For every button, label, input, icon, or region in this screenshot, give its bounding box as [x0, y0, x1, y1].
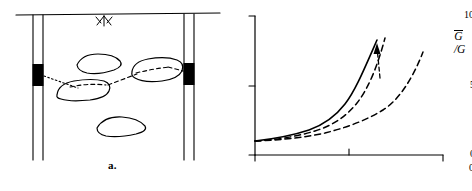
panel-a-schematic: a.: [0, 0, 236, 191]
top-boundary-line: [16, 13, 220, 15]
series-matrix-stiffness-curve: [255, 52, 423, 141]
panel-b-chart: 10 5 0 0.0 0.5 1.0 G/G λ average velocit…: [225, 0, 472, 191]
cell-shape-lower: [97, 117, 146, 137]
trend-arrow-icon: [374, 43, 381, 78]
cell-internal-dash-upper: [136, 67, 169, 73]
y-axis-label: G/G: [454, 30, 472, 55]
cell-shape-upper: [77, 54, 121, 74]
panel-a-drawing: [0, 0, 236, 191]
series-average-velocity-curve: [255, 40, 377, 141]
force-path-right-segment: [168, 67, 183, 71]
branch-mark-icon: [96, 16, 112, 26]
cell-shape-left-attached: [57, 80, 110, 101]
chart-drawing: [225, 0, 472, 191]
right-wall-adhesion-block: [184, 63, 195, 85]
figure-container: a.: [0, 0, 472, 191]
cell-shape-right-attached: [132, 58, 183, 82]
panel-a-label: a.: [108, 159, 117, 171]
left-wall-adhesion-block: [33, 64, 44, 86]
y-tick-label-10: 10: [464, 9, 472, 20]
